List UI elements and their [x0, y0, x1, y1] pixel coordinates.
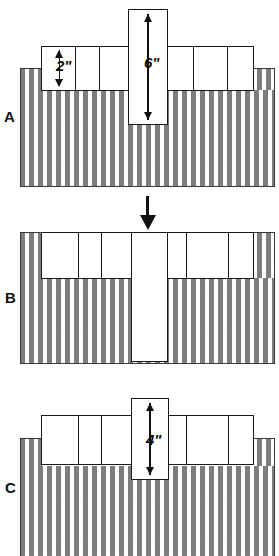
panel-a-liquid-right-wing [253, 68, 275, 90]
panel-a-dim-6in-label: 6" [144, 55, 159, 70]
panel-b-left-block-divider-1 [78, 232, 79, 279]
panel-c-surface-right [253, 438, 275, 439]
panel-a-right-block-divider-2 [227, 46, 228, 91]
panel-a-surface-right [253, 68, 275, 69]
figure-canvas: 2" 6" A B [0, 0, 279, 556]
panel-a-dim-2in-label: 2" [56, 58, 71, 73]
panel-a-liquid-left-wing [20, 68, 42, 90]
panel-c-right-block-divider-2 [228, 415, 229, 465]
panel-c-left-block-divider-1 [78, 415, 79, 465]
panel-b-liquid-left-column [20, 232, 42, 278]
panel-b-tank-right-wall [274, 232, 275, 364]
panel-a-dim-2in-arrowhead-bottom [55, 79, 63, 87]
panel-b-letter: B [5, 290, 16, 305]
panel-a-surface-left [20, 68, 42, 69]
panel-a-letter: A [4, 109, 15, 124]
panel-c-right-block [167, 415, 254, 465]
panel-a-right-block [167, 46, 254, 91]
panel-b-liquid-right-column [253, 232, 275, 278]
arrow-a-to-b-head [140, 215, 156, 230]
panel-b-tank-left-wall [20, 232, 21, 364]
panel-b-right-block-divider-2 [228, 232, 229, 279]
panel-a-dim-6in-arrowhead-bottom [144, 112, 152, 120]
panel-b-left-block [41, 232, 133, 279]
panel-b-right-block-divider-1 [186, 232, 187, 279]
panel-a-tank-right-wall [274, 68, 275, 187]
panel-a-tank-bottom [20, 186, 275, 187]
panel-a-left-block-divider-2 [99, 46, 100, 91]
panel-b-right-block [167, 232, 254, 279]
panel-c-surface-left [20, 438, 42, 439]
panel-b-tank-top-right [253, 232, 275, 233]
panel-c-letter: C [5, 480, 16, 495]
panel-a-tank-left-wall [20, 68, 21, 187]
panel-c-right-block-divider-1 [186, 415, 187, 465]
panel-b-tank-top-left [20, 232, 42, 233]
panel-c-left-block [41, 415, 133, 465]
panel-c-liquid-left-wing [20, 438, 42, 466]
panel-a-left-block-divider-1 [75, 46, 76, 91]
panel-c-tank-right-wall [274, 438, 275, 556]
panel-b-plunger [131, 232, 168, 362]
panel-c-dim-4in-arrowhead-bottom [146, 467, 154, 475]
panel-b-tank-bottom [20, 363, 275, 364]
panel-c-liquid-right-wing [253, 438, 275, 466]
panel-c-left-block-divider-2 [101, 415, 102, 465]
panel-b-left-block-divider-2 [101, 232, 102, 279]
panel-c-dim-4in-label: 4" [146, 432, 161, 447]
panel-c-tank-left-wall [20, 438, 21, 556]
panel-a-right-block-divider-1 [193, 46, 194, 91]
